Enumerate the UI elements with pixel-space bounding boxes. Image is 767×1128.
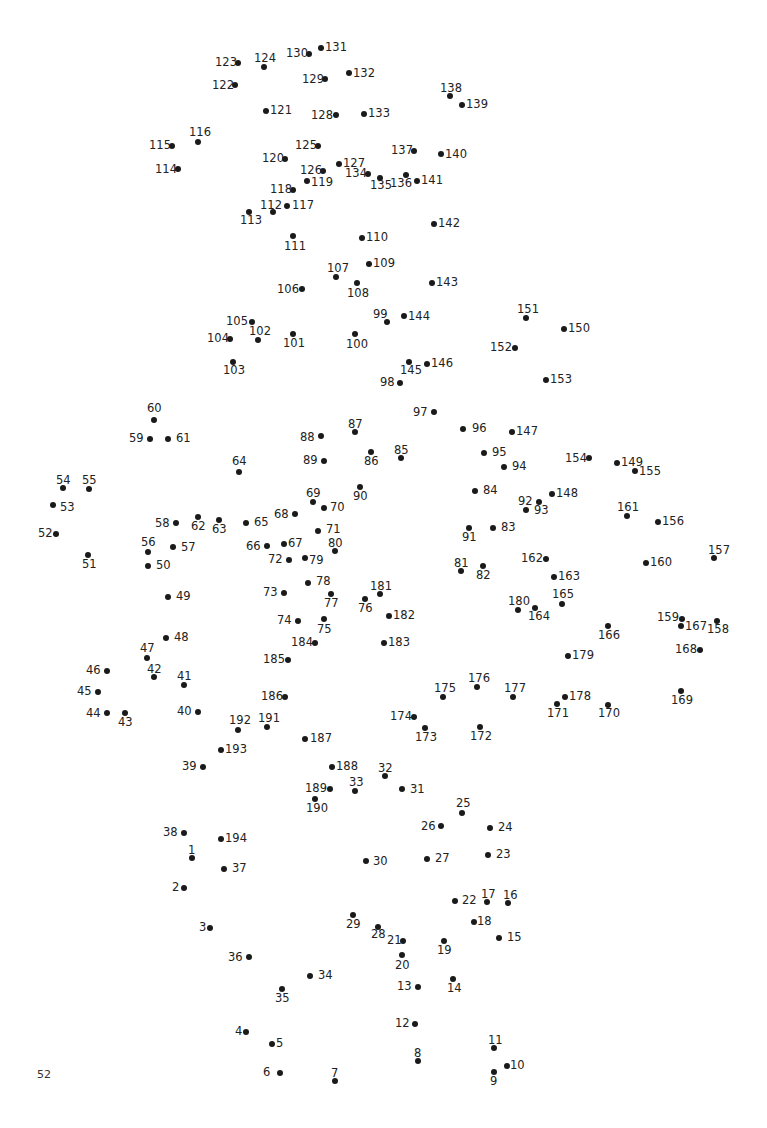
dot-number-label: 20 [395,960,410,972]
dot-number-label: 143 [436,277,458,289]
dot-number-label: 84 [483,485,498,497]
dot-number-label: 123 [215,57,237,69]
dot-number-label: 26 [421,821,436,833]
dot-number-label: 7 [331,1068,338,1080]
dot-number-label: 186 [261,691,283,703]
puzzle-dot [549,491,555,497]
dot-number-label: 104 [207,333,229,345]
puzzle-dot [147,436,153,442]
puzzle-dot [333,112,339,118]
dot-number-label: 188 [336,761,358,773]
dot-number-label: 150 [568,323,590,335]
dot-number-label: 45 [77,686,92,698]
dot-number-label: 97 [413,407,428,419]
puzzle-dot [285,657,291,663]
dot-number-label: 133 [368,108,390,120]
dot-number-label: 27 [435,853,450,865]
puzzle-dot [359,235,365,241]
dot-number-label: 70 [330,502,345,514]
dot-number-label: 156 [662,516,684,528]
puzzle-dot [414,178,420,184]
dot-number-label: 194 [225,833,247,845]
dot-number-label: 185 [263,654,285,666]
puzzle-dot [292,511,298,517]
dot-number-label: 65 [254,517,269,529]
puzzle-dot [543,377,549,383]
puzzle-dot [415,984,421,990]
dot-number-label: 174 [390,711,412,723]
dot-number-label: 124 [254,53,276,65]
puzzle-dot [438,823,444,829]
puzzle-dot [336,161,342,167]
puzzle-dot [565,653,571,659]
dot-number-label: 114 [155,164,177,176]
dot-number-label: 95 [492,447,507,459]
dot-number-label: 131 [325,42,347,54]
dot-number-label: 54 [56,475,71,487]
puzzle-dot [264,543,270,549]
dot-number-label: 57 [181,542,196,554]
dot-number-label: 173 [415,732,437,744]
puzzle-dot [104,710,110,716]
dot-number-label: 138 [440,83,462,95]
puzzle-dot [562,694,568,700]
puzzle-dot [485,852,491,858]
dot-number-label: 37 [232,863,247,875]
dot-number-label: 38 [163,827,178,839]
dot-number-label: 51 [82,559,97,571]
puzzle-dot [496,935,502,941]
dot-number-label: 6 [263,1067,270,1079]
dot-number-label: 29 [346,919,361,931]
puzzle-dot [286,557,292,563]
puzzle-dot [145,549,151,555]
dot-number-label: 63 [212,524,227,536]
dot-number-label: 19 [437,945,452,957]
puzzle-dot [543,556,549,562]
puzzle-dot [561,326,567,332]
dot-number-label: 113 [240,215,262,227]
puzzle-dot [200,764,206,770]
dot-number-label: 116 [189,127,211,139]
puzzle-dot [221,866,227,872]
dot-number-label: 158 [707,624,729,636]
dot-number-label: 105 [226,316,248,328]
dot-number-label: 87 [348,419,363,431]
dot-number-label: 181 [370,581,392,593]
dot-number-label: 140 [445,149,467,161]
dot-number-label: 42 [147,664,162,676]
dot-number-label: 83 [501,522,516,534]
puzzle-dot [452,898,458,904]
puzzle-dot [302,555,308,561]
dot-number-label: 40 [177,706,192,718]
dot-number-label: 53 [60,502,75,514]
dot-number-label: 168 [675,644,697,656]
puzzle-dot [218,836,224,842]
dot-number-label: 182 [393,610,415,622]
dot-number-label: 14 [447,983,462,995]
dot-number-label: 77 [324,598,339,610]
dot-number-label: 12 [395,1018,410,1030]
puzzle-dot [170,544,176,550]
dot-number-label: 141 [421,175,443,187]
dot-number-label: 60 [147,403,162,415]
puzzle-dot [386,613,392,619]
dot-number-label: 76 [358,603,373,615]
puzzle-dot [235,727,241,733]
puzzle-dot [181,885,187,891]
dot-number-label: 21 [387,935,402,947]
puzzle-dot [243,1029,249,1035]
puzzle-dot [509,429,515,435]
dot-number-label: 90 [353,491,368,503]
dot-number-label: 100 [346,339,368,351]
dot-number-label: 101 [283,338,305,350]
dot-number-label: 30 [373,856,388,868]
puzzle-dot [399,786,405,792]
puzzle-dot [424,856,430,862]
puzzle-dot [181,830,187,836]
puzzle-dot [246,954,252,960]
dot-number-label: 86 [364,456,379,468]
dot-number-label: 4 [235,1026,242,1038]
dot-number-label: 16 [503,890,518,902]
puzzle-dot [299,286,305,292]
dot-number-label: 81 [454,558,469,570]
